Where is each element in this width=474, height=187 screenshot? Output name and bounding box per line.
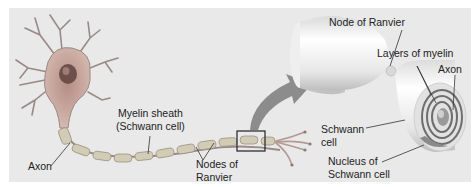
label-myelin-sheath: Myelin sheath <box>118 107 183 119</box>
label-nucleus-of: Nucleus of <box>328 155 378 167</box>
label-schwann: Schwann <box>321 123 364 135</box>
label-axon-left: Axon <box>28 160 52 172</box>
label-schwann-cell: Schwann cell <box>328 168 390 180</box>
label-axon-right: Axon <box>438 63 462 75</box>
label-schwann-cell-paren: (Schwann cell) <box>116 120 185 132</box>
axon-core <box>437 108 449 126</box>
cell-body <box>44 48 90 128</box>
label-node-of-ranvier: Node of Ranvier <box>329 16 405 28</box>
label-layers-of-myelin: Layers of myelin <box>377 47 453 59</box>
label-nodes-of: Nodes of <box>196 158 238 170</box>
node-of-ranvier-bump <box>386 66 396 76</box>
myelin-segments <box>58 127 275 162</box>
label-cell: cell <box>321 136 337 148</box>
diagram-canvas: Myelin sheath (Schwann cell) Axon Nodes … <box>0 0 474 187</box>
label-ranvier: Ranvier <box>196 171 232 183</box>
